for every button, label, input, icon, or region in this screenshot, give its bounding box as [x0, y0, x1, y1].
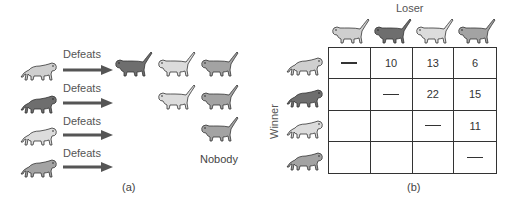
- matrix-cell: [454, 142, 496, 173]
- matrix-cell: [371, 111, 413, 142]
- arrow-icon: [63, 65, 113, 75]
- matrix-cell: [329, 111, 371, 142]
- dominance-matrix: 10 13 6 22 15 11: [328, 47, 497, 174]
- matrix-cell: 22: [413, 79, 455, 110]
- winner-monkey-dark-icon: [18, 88, 58, 118]
- matrix-cell: [413, 111, 455, 142]
- defeats-label: Defeats: [63, 147, 101, 159]
- matrix-cell: 10: [371, 48, 413, 79]
- winner-monkey-light-icon: [18, 55, 58, 85]
- defeats-label: Defeats: [63, 82, 101, 94]
- arrow-icon: [63, 162, 113, 172]
- diagonal-dash: [425, 125, 441, 127]
- defeats-label: Defeats: [63, 115, 101, 127]
- matrix-cell: [329, 142, 371, 173]
- defeated-monkey-dark-icon: [113, 50, 153, 80]
- matrix-cell: 13: [413, 48, 455, 79]
- column-monkey-light-icon: [330, 17, 370, 47]
- column-monkey-dark-icon: [372, 17, 412, 47]
- matrix-cell: 15: [454, 79, 496, 110]
- row-monkey-pale-icon: [284, 113, 324, 143]
- defeated-monkey-pale-icon: [156, 83, 196, 113]
- matrix-cell: [413, 142, 455, 173]
- arrow-icon: [63, 130, 113, 140]
- matrix-cell: 6: [454, 48, 496, 79]
- caption-a: (a): [122, 181, 135, 193]
- loser-axis-label: Loser: [396, 2, 424, 14]
- matrix-cell: [329, 48, 371, 79]
- diagonal-dash: [341, 62, 357, 64]
- diagonal-dash: [467, 157, 483, 159]
- winner-monkey-pale-icon: [18, 120, 58, 150]
- row-monkey-light-icon: [284, 50, 324, 80]
- matrix-cell: [371, 79, 413, 110]
- column-monkey-pale-icon: [414, 17, 454, 47]
- row-monkey-mid-icon: [284, 145, 324, 175]
- caption-b: (b): [407, 181, 420, 193]
- matrix-cell: 11: [454, 111, 496, 142]
- row-monkey-dark-icon: [284, 82, 324, 112]
- defeats-label: Defeats: [63, 48, 101, 60]
- column-monkey-mid-icon: [456, 17, 496, 47]
- nobody-label: Nobody: [200, 153, 238, 165]
- defeated-monkey-mid-icon: [199, 115, 239, 145]
- defeated-monkey-pale-icon: [156, 50, 196, 80]
- defeated-monkey-mid-icon: [199, 50, 239, 80]
- arrow-icon: [63, 98, 113, 108]
- diagonal-dash: [383, 94, 399, 96]
- matrix-cell: [371, 142, 413, 173]
- matrix-cell: [329, 79, 371, 110]
- defeated-monkey-mid-icon: [199, 83, 239, 113]
- winner-monkey-mid-icon: [18, 152, 58, 182]
- winner-axis-label: Winner: [268, 104, 280, 139]
